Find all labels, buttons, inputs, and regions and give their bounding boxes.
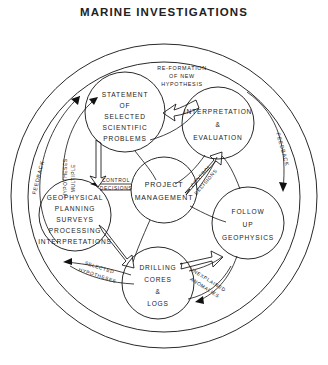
svg-text:CORES: CORES (144, 276, 172, 283)
svg-text:DECISIONS: DECISIONS (100, 186, 132, 191)
followup-to-interpretation-link (222, 156, 240, 189)
statement-to-project-link (135, 151, 156, 180)
svg-text:DRILLING: DRILLING (139, 264, 176, 271)
node-statement-label: STATEMENT OF SELECTED SCIENTIFIC PROBLEM… (102, 91, 149, 142)
label-selected-hypotheses: SELECTED HYPOTHESES (78, 260, 117, 284)
svg-text:EVALUATION: EVALUATION (193, 134, 242, 141)
project-to-followup-link (190, 206, 226, 222)
label-unexplained-anomalies: UNEXPLAINED ANOMALIES (189, 267, 227, 299)
label-reformation-of-new-hypothesis: RE-FORMATION OF NEW HYPOTHESIS (157, 65, 207, 87)
svg-text:UP: UP (243, 221, 254, 228)
svg-text:STATEMENT: STATEMENT (102, 91, 149, 98)
unexplained-anomalies-arrowhead (195, 296, 204, 304)
label-control-decisions-left: CONTROL DECISIONS (100, 178, 132, 191)
svg-text:FOLLOW: FOLLOW (232, 208, 265, 215)
svg-text:SURVEYS: SURVEYS (56, 216, 93, 223)
node-drilling-label: DRILLING CORES & LOGS (139, 264, 176, 307)
svg-text:PROBLEMS: PROBLEMS (103, 135, 146, 142)
multiple-hypotheses-arc (63, 98, 97, 180)
label-feedback-left: FEEDBACK (31, 160, 45, 195)
svg-text:&: & (215, 121, 220, 128)
diagram-canvas: MARINE INVESTIGATIONS (0, 0, 328, 365)
node-interpretation-label: INTERPRETATION & EVALUATION (184, 108, 252, 141)
project-to-drilling-link (133, 220, 150, 262)
node-followup-label: FOLLOW UP GEOPHYSICS (222, 208, 274, 241)
svg-text:MULTIPLE: MULTIPLE (71, 164, 76, 192)
node-geophysical-label: GEOPHYSICAL PLANNING SURVEYS PROCESSING … (38, 194, 112, 245)
label-feedback-right: FEEDBACK (275, 132, 290, 167)
svg-text:SCIENTIFIC: SCIENTIFIC (102, 124, 147, 131)
svg-text:INTERPRETATIONS: INTERPRETATIONS (38, 238, 112, 245)
svg-text:PLANNING: PLANNING (55, 205, 96, 212)
svg-text:PROJECT: PROJECT (145, 181, 184, 188)
svg-text:HYPOTHESIS: HYPOTHESIS (161, 81, 203, 87)
drilling-to-followup-arrow (180, 251, 223, 269)
svg-text:&: & (155, 288, 160, 295)
feedback-right-arrowhead (279, 182, 287, 192)
svg-text:HYPOTHESES: HYPOTHESES (63, 158, 68, 198)
node-project-management-label: PROJECT MANAGEMENT (135, 181, 194, 201)
svg-text:CONTROL: CONTROL (102, 178, 130, 183)
svg-text:LOGS: LOGS (147, 300, 169, 307)
label-multiple-hypotheses: MULTIPLE HYPOTHESES (63, 158, 76, 198)
svg-text:OF NEW: OF NEW (169, 73, 195, 79)
svg-text:SELECTED: SELECTED (104, 113, 146, 120)
svg-text:MANAGEMENT: MANAGEMENT (135, 194, 194, 201)
svg-text:INTERPRETATION: INTERPRETATION (184, 108, 252, 115)
svg-text:GEOPHYSICS: GEOPHYSICS (222, 234, 274, 241)
svg-text:GEOPHYSICAL: GEOPHYSICAL (47, 194, 104, 201)
node-drilling-cores-and-logs[interactable] (122, 247, 194, 319)
marine-investigations-diagram: STATEMENT OF SELECTED SCIENTIFIC PROBLEM… (0, 0, 328, 365)
svg-text:RE-FORMATION: RE-FORMATION (157, 65, 207, 71)
svg-text:OF: OF (120, 102, 131, 109)
svg-text:PROCESSING: PROCESSING (49, 227, 101, 234)
selected-hypotheses-arrowhead (63, 258, 72, 265)
